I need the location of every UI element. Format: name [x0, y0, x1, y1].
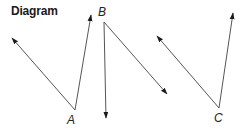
angle-b: B: [98, 5, 167, 118]
angles-diagram: ABC: [0, 0, 240, 129]
ray-c-1-arrow-icon: [157, 36, 219, 108]
angle-layer: ABC: [12, 5, 233, 127]
ray-a-2-arrow-icon: [75, 15, 91, 110]
angle-a: A: [12, 15, 91, 127]
ray-a-1-arrow-icon: [12, 38, 75, 110]
vertex-label-a: A: [66, 113, 75, 127]
vertex-label-c: C: [214, 111, 223, 125]
ray-b-2-arrow-icon: [104, 22, 167, 94]
angle-c: C: [157, 13, 233, 125]
ray-c-2-arrow-icon: [219, 13, 233, 108]
vertex-label-b: B: [98, 5, 106, 19]
ray-b-1-arrow-icon: [104, 22, 106, 118]
